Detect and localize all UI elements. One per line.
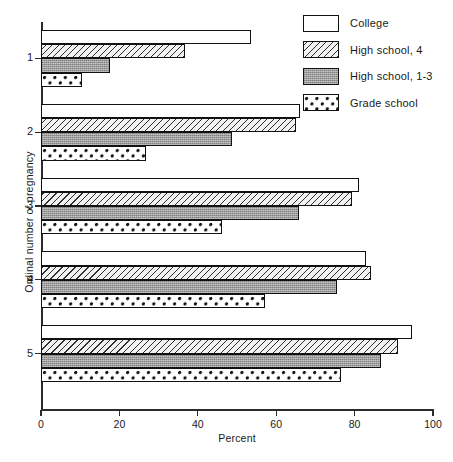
bar-grade-school-group-2 bbox=[41, 146, 146, 160]
x-tick-label-0: 0 bbox=[38, 418, 44, 430]
bar-high-school-1-3-group-1 bbox=[41, 58, 110, 72]
bar-high-school-4-group-3 bbox=[41, 192, 352, 206]
bar-high-school-1-3-group-5 bbox=[41, 354, 381, 368]
y-tick-label-1: 1 bbox=[21, 51, 33, 63]
legend-swatch-white bbox=[303, 15, 339, 32]
bar-high-school-1-3-group-4 bbox=[41, 280, 337, 294]
legend-item-grade-school: Grade school bbox=[303, 92, 453, 114]
bar-grade-school-group-3 bbox=[41, 220, 222, 234]
x-tick-40 bbox=[197, 410, 198, 416]
x-tick-60 bbox=[276, 410, 277, 416]
bar-high-school-1-3-group-2 bbox=[41, 132, 232, 146]
x-axis-line bbox=[41, 409, 434, 411]
bar-high-school-4-group-2 bbox=[41, 118, 296, 132]
legend-item-high-school-1-3: High school, 1-3 bbox=[303, 65, 453, 87]
bar-college-group-5 bbox=[41, 325, 412, 339]
legend-label: High school, 4 bbox=[350, 44, 423, 56]
bar-grade-school-group-5 bbox=[41, 368, 341, 382]
x-tick-label-100: 100 bbox=[424, 418, 442, 430]
bar-college-group-4 bbox=[41, 251, 366, 265]
y-tick-label-5: 5 bbox=[21, 347, 33, 359]
bar-high-school-1-3-group-3 bbox=[41, 206, 299, 220]
legend-swatch-dotted bbox=[303, 94, 339, 111]
x-tick-0 bbox=[40, 410, 41, 416]
x-tick-label-80: 80 bbox=[349, 418, 361, 430]
x-axis-title: Percent bbox=[41, 432, 433, 444]
bar-grade-school-group-1 bbox=[41, 73, 82, 87]
bar-high-school-4-group-1 bbox=[41, 44, 185, 58]
bar-chart-figure: 02040608010012345 Percent Ordinal number… bbox=[0, 0, 453, 462]
legend-label: College bbox=[350, 17, 389, 29]
legend-swatch-diagonal bbox=[303, 41, 339, 58]
bar-high-school-4-group-4 bbox=[41, 266, 371, 280]
bar-high-school-4-group-5 bbox=[41, 339, 398, 353]
bar-college-group-3 bbox=[41, 178, 359, 192]
legend-label: High school, 1-3 bbox=[350, 70, 433, 82]
x-tick-80 bbox=[354, 410, 355, 416]
chart-legend: CollegeHigh school, 4High school, 1-3Gra… bbox=[303, 12, 453, 118]
bar-college-group-1 bbox=[41, 30, 251, 44]
legend-swatch-gray bbox=[303, 68, 339, 85]
legend-item-college: College bbox=[303, 12, 453, 34]
x-tick-label-40: 40 bbox=[192, 418, 204, 430]
bar-college-group-2 bbox=[41, 104, 300, 118]
bar-grade-school-group-4 bbox=[41, 294, 265, 308]
x-tick-label-60: 60 bbox=[270, 418, 282, 430]
y-axis-title: Ordinal number of pregnancy bbox=[23, 97, 35, 347]
x-tick-label-20: 20 bbox=[114, 418, 126, 430]
x-tick-100 bbox=[432, 410, 433, 416]
legend-label: Grade school bbox=[350, 97, 418, 109]
legend-item-high-school-4: High school, 4 bbox=[303, 39, 453, 61]
x-tick-20 bbox=[119, 410, 120, 416]
